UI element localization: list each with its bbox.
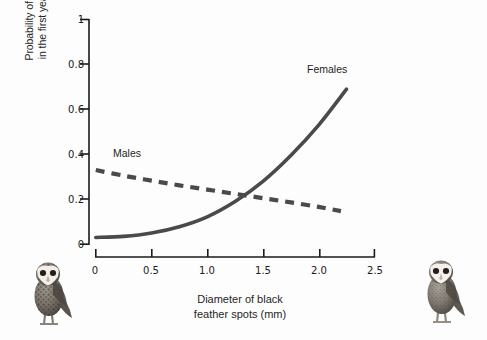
chart-figure: Probability of survival in the first yea… (0, 0, 487, 340)
x-axis-spine (95, 249, 375, 257)
series-line-females (96, 89, 347, 237)
series-line-males (96, 170, 341, 211)
owl-illustration-right (415, 256, 471, 330)
y-axis-spine (80, 19, 89, 245)
owl-illustration-left (22, 258, 78, 332)
